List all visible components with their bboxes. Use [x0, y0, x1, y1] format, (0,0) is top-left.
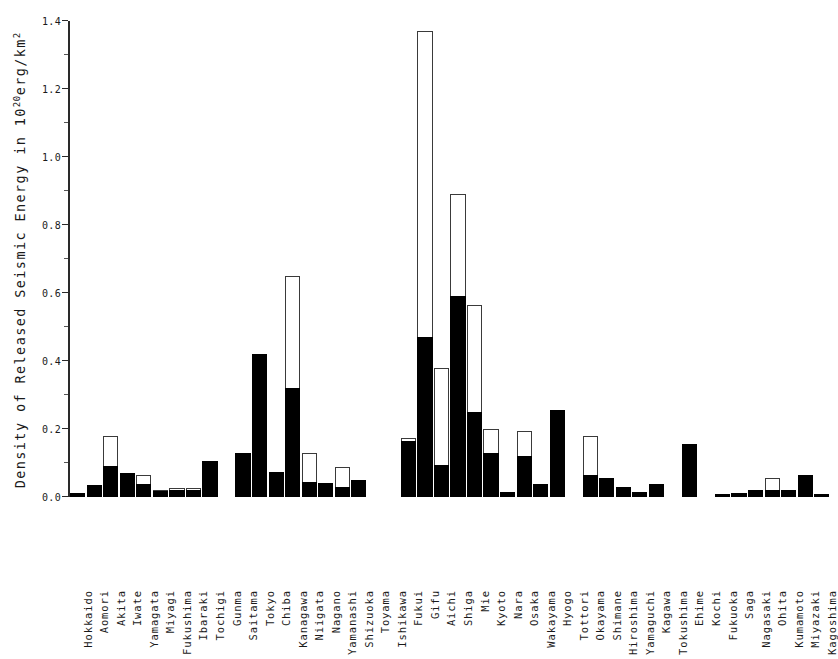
- x-axis-tick-label: Wakayama: [545, 590, 557, 659]
- bar: [219, 496, 234, 497]
- bar-series-container: [70, 21, 831, 497]
- x-axis-tick-label: Miyazaki: [809, 590, 821, 659]
- bar-filled-segment: [120, 473, 135, 497]
- bar: [169, 488, 184, 497]
- x-axis-tick-label: Saga: [743, 590, 755, 659]
- x-axis-tick-label: Shimane: [611, 590, 623, 659]
- x-axis-tick-label: Hiroshima: [627, 590, 639, 659]
- bar: [483, 429, 498, 497]
- y-axis-tick: [62, 360, 68, 361]
- bar: [318, 483, 333, 497]
- bar: [616, 487, 631, 497]
- x-axis-tick-label: Iwate: [131, 590, 143, 659]
- x-axis-tick-label: Gunma: [231, 590, 243, 659]
- y-axis-tick: [62, 88, 68, 89]
- x-axis-tick-label: Ibaraki: [197, 590, 209, 659]
- y-axis-tick-label: 0.0: [42, 492, 61, 503]
- bar: [765, 478, 780, 497]
- bar: [153, 490, 168, 497]
- bar: [120, 473, 135, 497]
- y-axis-tick: [62, 428, 68, 429]
- y-axis-tick-label: 1.0: [42, 152, 61, 163]
- x-axis-tick-label: Akita: [115, 590, 127, 659]
- bar: [450, 194, 465, 497]
- y-axis-tick: [62, 496, 68, 497]
- y-axis-tick: [62, 156, 68, 157]
- bar-filled-segment: [533, 484, 548, 497]
- x-axis-tick-label: Kagoshima: [826, 590, 838, 659]
- bar-filled-segment: [517, 456, 532, 497]
- bar: [632, 492, 647, 497]
- y-axis-minor-tick: [64, 54, 68, 55]
- bar: [814, 494, 829, 497]
- bar-filled-segment: [682, 444, 697, 497]
- bar: [781, 490, 796, 497]
- y-axis-tick: [62, 292, 68, 293]
- y-axis-tick: [62, 20, 68, 21]
- y-axis-minor-tick: [64, 394, 68, 395]
- bar: [748, 490, 763, 497]
- y-axis-minor-tick: [64, 258, 68, 259]
- x-axis-tick-label: Fukui: [412, 590, 424, 659]
- bar: [682, 444, 697, 497]
- y-axis-tick-label: 0.2: [42, 424, 61, 435]
- bar-filled-segment: [302, 482, 317, 497]
- bar-filled-segment: [87, 485, 102, 497]
- x-axis-tick-label: Tokyo: [264, 590, 276, 659]
- bar: [517, 431, 532, 497]
- x-axis-tick-label: Gifu: [429, 590, 441, 659]
- x-axis-tick-label: Osaka: [528, 590, 540, 659]
- bar-filled-segment: [467, 412, 482, 497]
- bar-filled-segment: [335, 487, 350, 497]
- bar-filled-segment: [153, 491, 168, 497]
- bar-filled-segment: [748, 490, 763, 497]
- bar: [599, 478, 614, 497]
- x-axis-tick-label: Saitama: [247, 590, 259, 659]
- y-axis-title: Density of Released Seismic Energy in 10…: [12, 32, 29, 488]
- bar: [70, 493, 85, 497]
- bar-filled-segment: [103, 466, 118, 497]
- bar: [269, 472, 284, 498]
- x-axis-labels: HokkaidoAomoriAkitaIwateYamagataMiyagiFu…: [68, 500, 830, 592]
- x-axis-tick-label: Nagasaki: [760, 590, 772, 659]
- y-axis-minor-tick: [64, 122, 68, 123]
- bar-filled-segment: [583, 475, 598, 497]
- x-axis-tick-label: Yamagata: [148, 590, 160, 659]
- bar: [583, 436, 598, 497]
- bar-filled-segment: [550, 410, 565, 497]
- x-axis-tick-label: Kyoto: [495, 590, 507, 659]
- bar-filled-segment: [715, 494, 730, 497]
- y-axis-minor-tick: [64, 326, 68, 327]
- bar-filled-segment: [70, 493, 85, 497]
- bar-filled-segment: [401, 441, 416, 497]
- bar-filled-segment: [136, 484, 151, 497]
- bar: [731, 493, 746, 497]
- x-axis-tick-label: Nara: [512, 590, 524, 659]
- plot-area: 0.00.20.40.60.81.01.21.4: [68, 21, 830, 497]
- x-axis-tick-label: Nagano: [330, 590, 342, 659]
- x-axis-tick-label: Chiba: [280, 590, 292, 659]
- x-axis-tick-label: Yamaguchi: [644, 590, 656, 659]
- bar-filled-segment: [798, 475, 813, 497]
- x-axis-tick-label: Kanagawa: [297, 590, 309, 659]
- bar: [533, 484, 548, 497]
- x-axis-tick-label: Shizuoka: [363, 590, 375, 659]
- x-axis-tick-label: Yamanashi: [346, 590, 358, 659]
- bar-filled-segment: [434, 465, 449, 497]
- x-axis-tick-label: Kochi: [710, 590, 722, 659]
- x-axis-tick-label: Okayama: [594, 590, 606, 659]
- x-axis-tick-label: Shiga: [462, 590, 474, 659]
- y-axis-tick-label: 0.6: [42, 288, 61, 299]
- y-axis-minor-tick: [64, 190, 68, 191]
- bar: [566, 496, 581, 497]
- bar: [103, 436, 118, 497]
- bar: [368, 496, 383, 497]
- bar-filled-segment: [765, 490, 780, 497]
- bar: [351, 480, 366, 497]
- bar-filled-segment: [599, 478, 614, 497]
- y-axis-tick-label: 1.4: [42, 16, 61, 27]
- bar-filled-segment: [186, 490, 201, 497]
- bar-filled-segment: [252, 354, 267, 497]
- x-axis-tick-label: Mie: [479, 590, 491, 659]
